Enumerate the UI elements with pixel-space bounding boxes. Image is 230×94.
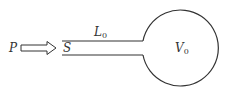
length-symbol: L — [94, 25, 102, 39]
area-symbol: S — [63, 41, 71, 55]
length-subscript: 0 — [102, 31, 107, 40]
volume-subscript: 0 — [184, 47, 189, 56]
pressure-label: P — [9, 42, 17, 54]
volume-label: V0 — [175, 42, 189, 56]
resonator-diagram: P S L0 V0 — [0, 0, 230, 94]
area-label: S — [63, 42, 71, 54]
pressure-arrow-icon — [21, 42, 56, 55]
pressure-symbol: P — [9, 41, 17, 55]
volume-symbol: V — [175, 41, 184, 55]
diagram-canvas — [0, 0, 230, 94]
length-label: L0 — [94, 26, 107, 40]
